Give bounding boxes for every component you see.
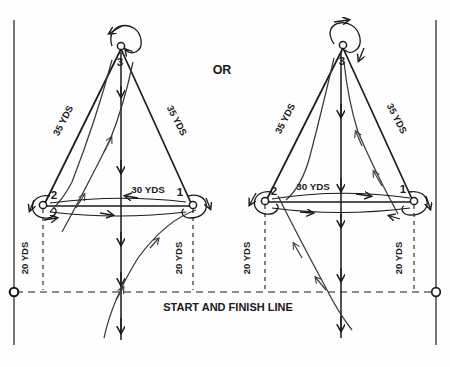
right-drill-pattern: 2 1 3 35 YDS 35 YDS 30 YDS 20 YDS 20 YDS bbox=[241, 20, 430, 338]
left-run23-arrow-2 bbox=[104, 138, 111, 152]
left-cone-1-marker bbox=[189, 201, 196, 208]
start-finish-line-caption: START AND FINISH LINE bbox=[163, 301, 293, 313]
right-cone-1-label: 1 bbox=[400, 183, 407, 195]
right-distance-20yds-left: 20 YDS bbox=[241, 242, 252, 275]
left-distance-20yds-right: 20 YDS bbox=[173, 242, 184, 275]
right-distance-20yds-right: 20 YDS bbox=[393, 242, 404, 275]
or-separator-label: OR bbox=[213, 63, 232, 77]
left-distance-35yds-left: 35 YDS bbox=[51, 103, 76, 137]
right-cone-2-marker bbox=[261, 197, 268, 204]
right-cone-3-marker bbox=[339, 41, 346, 48]
left-start-marker-icon bbox=[10, 288, 19, 297]
left-cone-3-marker bbox=[117, 42, 124, 49]
left-distance-20yds-left: 20 YDS bbox=[19, 242, 30, 275]
left-diagonal-arrow-2 bbox=[150, 239, 158, 248]
right-run-1-to-3-path bbox=[344, 62, 398, 214]
right-diagonal-arrow-1 bbox=[294, 244, 302, 258]
left-cone-2-marker bbox=[39, 201, 46, 208]
right-cone1-loop-arrow-2 bbox=[390, 216, 400, 219]
left-distance-35yds-right: 35 YDS bbox=[165, 103, 190, 137]
drill-diagram-figure: 2 1 3 35 YDS 35 YDS 30 YDS 20 YDS 20 YDS bbox=[0, 0, 450, 367]
drill-svg-canvas: 2 1 3 35 YDS 35 YDS 30 YDS 20 YDS 20 YDS bbox=[0, 0, 450, 367]
right-cone-1-marker bbox=[410, 197, 417, 204]
left-drill-pattern: 2 1 3 35 YDS 35 YDS 30 YDS 20 YDS 20 YDS bbox=[19, 26, 210, 340]
right-cone-2-label: 2 bbox=[271, 185, 277, 197]
left-distance-30yds-base: 30 YDS bbox=[131, 184, 165, 195]
left-base-upper-curve bbox=[50, 198, 186, 203]
left-base-arrow-right bbox=[100, 213, 112, 215]
right-cone-3-label: 3 bbox=[339, 55, 345, 67]
right-run13-arrow-1 bbox=[374, 172, 382, 186]
right-cone3-loop-arrow bbox=[334, 20, 348, 22]
left-cone-1-label: 1 bbox=[177, 186, 184, 198]
right-distance-35yds-left: 35 YDS bbox=[273, 101, 298, 135]
left-cone-3-label: 3 bbox=[117, 56, 123, 68]
left-cone3-loop-arrow bbox=[110, 26, 122, 33]
right-distance-35yds-right: 35 YDS bbox=[385, 101, 410, 135]
right-start-marker-icon bbox=[432, 288, 441, 297]
left-cone-2-label: 2 bbox=[51, 189, 57, 201]
right-distance-30yds-base: 30 YDS bbox=[296, 181, 330, 192]
left-diagonal-arrow-1 bbox=[116, 288, 123, 300]
right-cone3-loop-arrow-2 bbox=[359, 48, 364, 60]
